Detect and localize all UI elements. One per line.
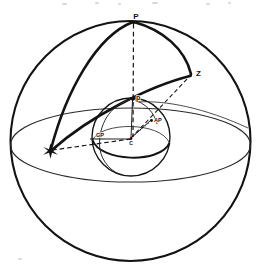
dashed-polar-axis xyxy=(133,24,134,137)
label-celestial-pole: P xyxy=(133,12,139,21)
label-center: C xyxy=(129,140,133,146)
point-marker-zenith xyxy=(189,74,192,77)
label-assumed-position: AP xyxy=(154,117,162,123)
arc-pole-to-zenith xyxy=(134,22,191,74)
label-terrestrial-pole: p xyxy=(136,94,140,102)
radius-center-to-terrestrial-pole xyxy=(131,100,133,138)
label-zenith: Z xyxy=(196,69,201,78)
point-marker-celestial-pole xyxy=(132,21,135,24)
point-marker-terrestrial-pole xyxy=(131,98,134,101)
label-geographical-position: GP xyxy=(96,132,104,138)
celestial-sphere-diagram: P Z p AP GP C xyxy=(0,0,262,273)
earth-meridian-arc xyxy=(99,99,132,175)
dotted-center-to-assumed-position xyxy=(132,122,150,137)
point-marker-assumed-position xyxy=(150,119,153,122)
scan-artifacts xyxy=(18,2,231,260)
diagram-canvas: P Z p AP GP C xyxy=(0,0,262,273)
